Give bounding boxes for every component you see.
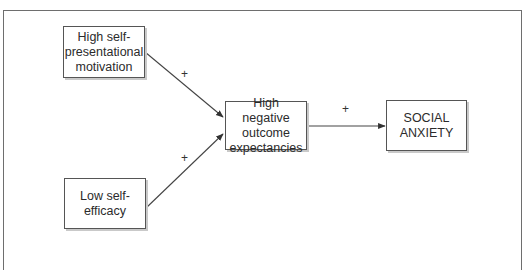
node-label: Low self- efficacy bbox=[80, 189, 130, 219]
node-negative-outcome-expectancies: High negative outcome expectancies bbox=[225, 101, 307, 150]
node-label: High negative outcome expectancies bbox=[229, 96, 303, 156]
edge-self-presentational-to-outcome bbox=[145, 52, 223, 117]
node-self-presentational-motivation: High self- presentational motivation bbox=[63, 26, 145, 78]
edge-label-horizontal: + bbox=[342, 103, 349, 115]
edge-self-efficacy-to-outcome bbox=[146, 134, 223, 208]
node-social-anxiety: SOCIAL ANXIETY bbox=[386, 100, 467, 151]
node-label: High self- presentational motivation bbox=[65, 30, 144, 75]
edge-label-lower: + bbox=[181, 152, 188, 164]
node-low-self-efficacy: Low self- efficacy bbox=[64, 178, 146, 229]
node-label: SOCIAL ANXIETY bbox=[400, 111, 454, 141]
edge-label-upper: + bbox=[181, 68, 188, 80]
